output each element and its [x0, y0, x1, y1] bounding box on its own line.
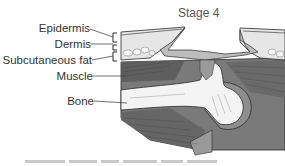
label-subcutaneous-fat: Subcutaneous fat	[2, 54, 92, 66]
stage4-pressure-ulcer-diagram: Stage 4 Epidermis Dermis Subcutaneous fa…	[0, 0, 285, 166]
label-epidermis: Epidermis	[39, 22, 90, 34]
clipped-caption	[25, 160, 235, 166]
layer-brackets	[113, 33, 117, 61]
label-dermis: Dermis	[55, 38, 91, 50]
label-muscle: Muscle	[57, 70, 93, 82]
label-bone: Bone	[67, 95, 94, 107]
stage-title: Stage 4	[178, 6, 219, 20]
